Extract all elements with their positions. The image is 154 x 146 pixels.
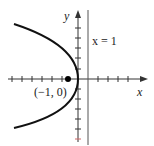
- x-axis-label: x: [137, 86, 142, 98]
- x-axis-arrow-icon: [140, 76, 148, 82]
- parabola-diagram: y x x = 1 (−1, 0): [0, 0, 154, 146]
- line-label: x = 1: [92, 35, 117, 47]
- parabola-curve: [14, 24, 78, 128]
- y-axis-label: y: [64, 10, 69, 22]
- diagram-canvas: [0, 0, 154, 146]
- y-axis-arrow-icon: [75, 10, 81, 18]
- point-focus: [65, 76, 71, 82]
- point-label: (−1, 0): [34, 86, 67, 98]
